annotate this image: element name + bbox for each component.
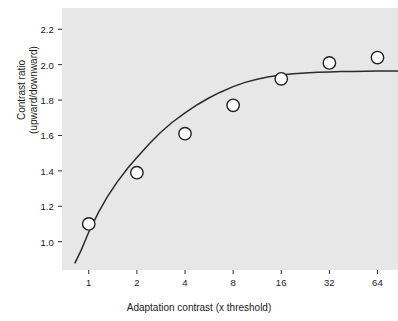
x-tick-label: 1 <box>86 277 91 288</box>
y-tick-label: 1.2 <box>14 201 54 212</box>
x-tick-label: 32 <box>324 277 335 288</box>
chart-canvas <box>0 0 398 321</box>
x-tick-label: 8 <box>230 277 235 288</box>
y-axis-title-line2: (upward/downward) <box>28 0 40 180</box>
data-point-marker <box>227 99 239 111</box>
data-point-marker <box>131 166 143 178</box>
y-axis-title: Contrast ratio (upward/downward) <box>16 0 40 180</box>
data-point-marker <box>83 218 95 230</box>
x-tick-label: 16 <box>276 277 287 288</box>
data-point-marker <box>323 57 335 69</box>
x-axis-title: Adaptation contrast (x threshold) <box>0 302 398 313</box>
data-point-marker <box>179 127 191 139</box>
data-point-marker <box>275 73 287 85</box>
data-point-markers <box>83 51 384 230</box>
y-tick-label: 1.0 <box>14 236 54 247</box>
y-axis-ticks <box>58 29 62 241</box>
data-point-marker <box>371 51 383 63</box>
y-axis-title-line1: Contrast ratio <box>16 0 28 180</box>
x-axis-ticks <box>89 270 378 274</box>
figure-container: 1.01.21.41.61.82.02.2 1248163264 Contras… <box>0 0 398 321</box>
x-tick-label: 2 <box>134 277 139 288</box>
x-tick-label: 4 <box>182 277 187 288</box>
x-tick-label: 64 <box>372 277 383 288</box>
